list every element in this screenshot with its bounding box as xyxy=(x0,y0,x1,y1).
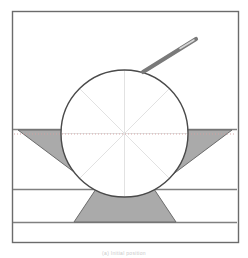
figure-root: (a) Initial position xyxy=(0,0,248,258)
technical-diagram xyxy=(0,0,248,258)
figure-caption: (a) Initial position xyxy=(0,248,248,258)
